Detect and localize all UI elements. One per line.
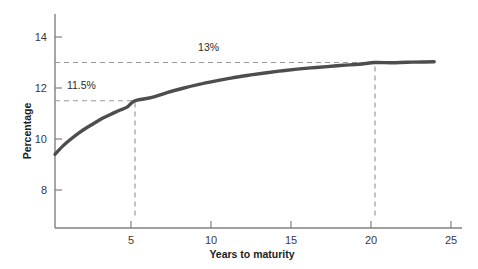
x-tick-label-25: 25 <box>445 234 457 246</box>
chart-canvas: 14 12 10 8 5 10 15 20 25 13% 11.5% Years <box>0 0 478 269</box>
annotation-guide-lines <box>55 63 375 216</box>
yield-curve-line <box>55 62 434 155</box>
x-tick-label-20: 20 <box>365 234 377 246</box>
x-tick-label-15: 15 <box>285 234 297 246</box>
y-tick-label-12: 12 <box>35 82 47 94</box>
x-axis-title: Years to maturity <box>209 248 294 260</box>
y-tick-label-14: 14 <box>35 31 47 43</box>
x-tick-label-5: 5 <box>128 234 134 246</box>
y-axis-ticks <box>55 37 62 190</box>
annotation-label-13-percent: 13% <box>198 41 219 53</box>
annotation-label-11-5-percent: 11.5% <box>67 79 96 91</box>
y-tick-label-10: 10 <box>35 133 47 145</box>
x-axis-tick-labels: 5 10 15 20 25 <box>128 234 457 246</box>
y-tick-label-8: 8 <box>41 184 47 196</box>
y-axis-tick-labels: 14 12 10 8 <box>35 31 47 196</box>
yield-curve-chart: 14 12 10 8 5 10 15 20 25 13% 11.5% Years <box>0 0 478 269</box>
y-axis-title: Percentage <box>21 103 33 160</box>
x-tick-label-10: 10 <box>205 234 217 246</box>
x-axis-ticks <box>131 221 451 228</box>
